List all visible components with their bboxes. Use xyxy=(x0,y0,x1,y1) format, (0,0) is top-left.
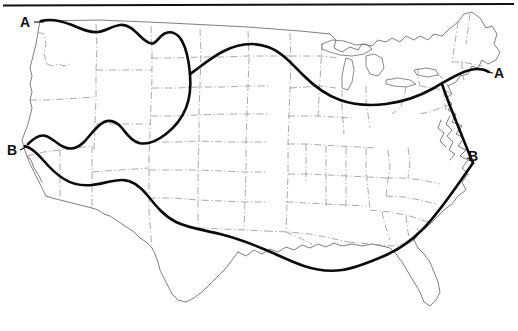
isoline-a xyxy=(28,20,190,149)
label-b-west: B xyxy=(7,142,17,158)
map-canvas: A A B B xyxy=(0,0,518,331)
great-lakes xyxy=(322,40,438,90)
top-rule xyxy=(3,4,514,6)
leader-lines xyxy=(20,22,493,160)
label-a-east: A xyxy=(494,65,504,81)
label-b-east: B xyxy=(468,148,478,164)
label-a-west: A xyxy=(20,14,30,30)
map-figure: A A B B xyxy=(0,0,518,331)
